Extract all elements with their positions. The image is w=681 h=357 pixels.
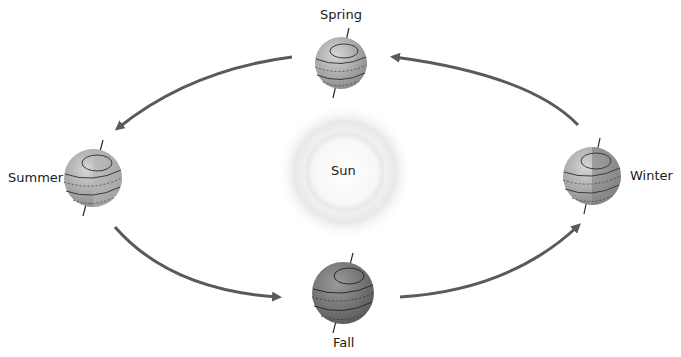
winter-label: Winter — [630, 168, 673, 183]
seasons-diagram: Sun Spring Summer Fall Winter — [0, 0, 681, 357]
globe-fall — [312, 253, 374, 333]
arrow-summer-to-fall — [115, 227, 278, 297]
arrow-winter-to-spring — [394, 57, 578, 125]
spring-label: Spring — [320, 7, 362, 22]
summer-label: Summer — [8, 170, 63, 185]
globe-summer — [64, 140, 122, 216]
arrow-spring-to-summer — [118, 57, 292, 128]
fall-label: Fall — [333, 335, 354, 350]
arrow-fall-to-winter — [400, 226, 578, 297]
sun-label: Sun — [331, 163, 356, 178]
globe-winter — [563, 138, 621, 214]
diagram-graphics — [0, 0, 681, 357]
globe-spring — [315, 28, 367, 98]
